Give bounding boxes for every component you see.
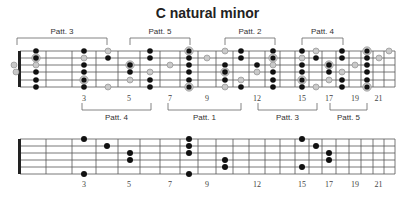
top-below-bracket <box>330 103 367 110</box>
connecting-note-dot <box>270 62 276 68</box>
scale-note-dot <box>33 69 39 75</box>
top-above-pattern-label: Patt. 2 <box>238 27 262 36</box>
top-above-bracket <box>17 38 107 45</box>
connecting-note-dot <box>313 48 319 54</box>
top-fret-number: 21 <box>375 94 383 103</box>
connecting-note-dot <box>222 84 228 90</box>
connecting-note-dot <box>386 48 392 54</box>
scale-note-dot <box>33 77 39 83</box>
top-above-bracket <box>225 38 275 45</box>
root-position-dot <box>186 171 192 177</box>
scale-note-dot <box>270 48 276 54</box>
top-fret-number: 17 <box>325 94 333 103</box>
bottom-fret-number: 19 <box>351 180 359 189</box>
top-above-bracket <box>302 38 343 45</box>
scale-note-dot <box>33 84 39 90</box>
root-position-dot <box>326 150 332 156</box>
root-position-dot <box>299 164 305 170</box>
root-note-dot <box>364 48 369 53</box>
top-above-pattern-label: Patt. 3 <box>50 27 74 36</box>
root-position-dot <box>186 150 192 156</box>
root-position-dot <box>313 143 319 149</box>
root-position-dot <box>186 143 192 149</box>
top-fret-number: 5 <box>127 94 131 103</box>
scale-note-dot <box>222 77 228 83</box>
bottom-fret-number: 5 <box>127 180 131 189</box>
bottom-fret-number: 21 <box>375 180 383 189</box>
connecting-note-dot <box>147 69 153 75</box>
top-below-pattern-label: Patt. 1 <box>193 113 217 122</box>
scale-note-dot <box>339 48 345 54</box>
root-position-dot <box>104 143 110 149</box>
scale-note-dot <box>364 69 370 75</box>
scale-note-dot <box>270 69 276 75</box>
top-nut <box>18 51 21 87</box>
root-note-dot <box>299 77 304 82</box>
scale-note-dot <box>299 84 305 90</box>
scale-note-dot <box>299 62 305 68</box>
root-note-dot <box>33 55 39 61</box>
scale-note-dot <box>339 84 345 90</box>
scale-note-dot <box>127 69 133 75</box>
top-fret-number: 3 <box>82 94 86 103</box>
bottom-nut <box>18 139 21 174</box>
scale-note-dot <box>81 69 87 75</box>
scale-note-dot <box>186 62 192 68</box>
top-above-pattern-label: Patt. 4 <box>311 27 335 36</box>
top-fret-number: 12 <box>253 94 261 103</box>
root-note-dot <box>186 48 191 53</box>
root-note-dot <box>186 84 191 89</box>
scale-note-dot <box>299 69 305 75</box>
scale-note-dot <box>326 69 332 75</box>
bottom-fret-number: 17 <box>325 180 333 189</box>
connecting-note-dot <box>352 62 358 68</box>
connecting-note-dot <box>238 77 244 83</box>
scale-note-dot <box>270 77 276 83</box>
top-above-bracket <box>130 38 190 45</box>
scale-note-dot <box>186 77 192 83</box>
connecting-note-dot <box>105 84 111 90</box>
bottom-fret-number: 3 <box>82 180 86 189</box>
scale-note-dot <box>339 55 345 61</box>
top-fret-number: 15 <box>298 94 306 103</box>
root-position-dot <box>222 157 228 163</box>
root-note-dot <box>270 55 275 60</box>
connecting-note-dot <box>299 55 305 61</box>
top-below-pattern-label: Patt. 5 <box>337 113 361 122</box>
connecting-note-dot <box>33 62 39 68</box>
bottom-fret-number: 7 <box>168 180 172 189</box>
scale-note-dot <box>364 77 370 83</box>
scale-note-dot <box>238 55 244 61</box>
scale-note-dot <box>81 84 87 90</box>
root-position-dot <box>81 171 87 177</box>
connecting-note-dot <box>376 55 382 61</box>
bottom-fret-number: 9 <box>205 180 209 189</box>
scale-note-dot <box>238 48 244 54</box>
fretboard-diagram: 3579121517192135791215171921Patt. 3Patt.… <box>0 0 415 199</box>
scale-note-dot <box>364 55 370 61</box>
bottom-fret-number: 12 <box>253 180 261 189</box>
connecting-note-dot <box>105 48 111 54</box>
top-fret-number: 19 <box>351 94 359 103</box>
top-below-bracket <box>168 103 241 110</box>
root-note-dot <box>127 62 133 68</box>
bottom-fret-number: 15 <box>298 180 306 189</box>
connecting-note-dot <box>127 77 133 83</box>
scale-note-dot <box>105 55 111 61</box>
scale-note-dot <box>222 62 228 68</box>
connecting-note-dot <box>313 84 319 90</box>
root-position-dot <box>186 136 192 142</box>
scale-note-dot <box>299 48 305 54</box>
scale-note-dot <box>313 55 319 61</box>
root-position-dot <box>81 136 87 142</box>
root-position-dot <box>127 150 133 156</box>
scale-note-dot <box>147 55 153 61</box>
scale-note-dot <box>364 62 370 68</box>
scale-note-dot <box>254 62 260 68</box>
connecting-note-dot <box>11 62 17 68</box>
scale-note-dot <box>186 55 192 61</box>
top-below-bracket <box>258 103 317 110</box>
connecting-note-dot <box>326 77 332 83</box>
top-below-pattern-label: Patt. 4 <box>105 113 129 122</box>
root-note-dot <box>222 69 228 75</box>
